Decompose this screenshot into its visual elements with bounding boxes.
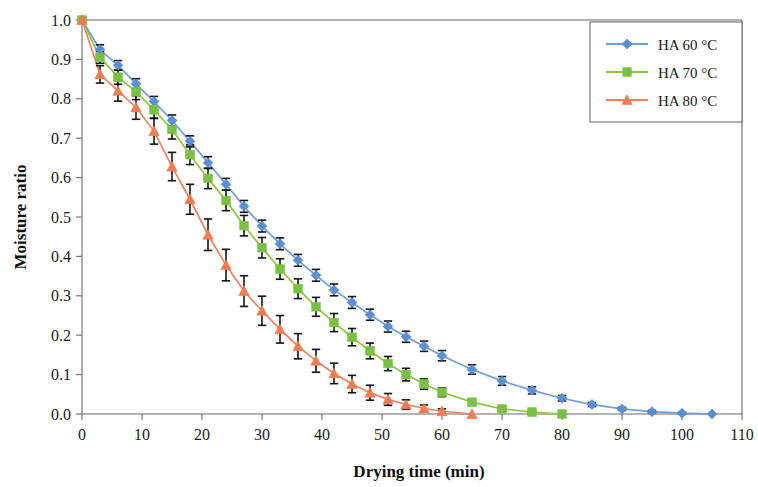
data-point [95,69,105,79]
series-line-2 [82,20,562,414]
y-tick-label: 0.0 [51,406,71,423]
series-line-3 [82,20,472,414]
data-point [185,194,195,204]
x-tick-label: 40 [314,426,330,443]
y-axis-ticks [76,20,82,414]
legend-entry-label: HA 70 °C [658,65,717,81]
x-tick-label: 100 [670,426,694,443]
data-point [167,161,177,171]
data-point [240,221,249,230]
data-point [401,332,411,342]
legend-marker-icon [623,68,632,77]
data-point [437,351,447,361]
data-point [347,297,357,307]
data-point [168,125,177,134]
data-point [558,410,567,419]
data-point [96,53,105,62]
data-point [497,376,507,386]
data-point [467,364,477,374]
chart-legend[interactable]: HA 60 °CHA 70 °CHA 80 °C [590,22,742,122]
x-tick-label: 80 [554,426,570,443]
x-tick-label: 10 [134,426,150,443]
data-point [528,408,537,417]
legend-entry-label: HA 60 °C [658,37,717,53]
data-point [617,404,627,414]
data-point [438,388,447,397]
y-tick-label: 0.3 [51,287,71,304]
x-tick-label: 20 [194,426,210,443]
data-point [222,196,231,205]
x-tick-label: 60 [434,426,450,443]
x-axis-ticks [82,414,742,420]
data-point [294,284,303,293]
data-point [365,310,375,320]
data-point [366,347,375,356]
error-bars-series-3 [96,66,446,414]
y-tick-label: 0.5 [51,209,71,226]
data-point [330,318,339,327]
data-point [383,394,393,404]
x-tick-label: 30 [254,426,270,443]
data-point [221,260,231,270]
y-tick-label: 0.2 [51,327,71,344]
data-point [468,398,477,407]
moisture-ratio-line-chart: 0102030405060708090100110 0.00.10.20.30.… [0,0,758,487]
x-tick-label: 110 [730,426,753,443]
data-point [365,388,375,398]
y-tick-label: 1.0 [51,12,71,29]
data-point [348,333,357,342]
data-point [677,408,687,418]
data-point [203,230,213,240]
data-point [402,370,411,379]
data-point [587,400,597,410]
x-tick-label: 50 [374,426,390,443]
y-tick-label: 0.1 [51,366,71,383]
y-axis-title: Moisture ratio [11,165,30,270]
x-tick-label: 90 [614,426,630,443]
legend-entry-label: HA 80 °C [658,93,717,109]
y-axis-tick-labels: 0.00.10.20.30.40.50.60.70.80.91.0 [51,12,71,423]
y-tick-label: 0.8 [51,90,71,107]
data-point [707,409,717,419]
data-point [347,379,357,389]
y-tick-label: 0.6 [51,169,71,186]
data-point [329,368,339,378]
markers-series-3 [77,15,477,419]
data-point [276,265,285,274]
y-tick-label: 0.4 [51,248,71,265]
data-point [150,106,159,115]
x-tick-label: 0 [78,426,86,443]
data-point [204,174,213,183]
data-point [239,286,249,296]
data-point [420,380,429,389]
data-point [647,407,657,417]
data-point [419,341,429,351]
data-point [186,150,195,159]
data-point [384,359,393,368]
markers-series-2 [78,16,567,419]
chart-figure: 0102030405060708090100110 0.00.10.20.30.… [0,0,758,487]
data-point [498,405,507,414]
data-point [258,243,267,252]
x-axis-tick-labels: 0102030405060708090100110 [78,426,754,443]
x-axis-title: Drying time (min) [353,462,484,481]
y-tick-label: 0.9 [51,51,71,68]
y-tick-label: 0.7 [51,130,71,147]
x-tick-label: 70 [494,426,510,443]
data-point [312,303,321,312]
data-point [383,322,393,332]
data-point [132,87,141,96]
data-point [114,73,123,82]
